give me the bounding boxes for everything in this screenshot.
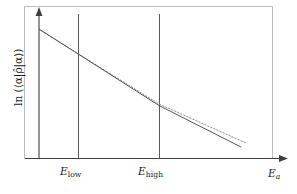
- dotted-trend-line: [39, 30, 246, 144]
- x-tick-label-e-low-main: E: [60, 165, 68, 177]
- figure-container: ln (⟨α|ρ̂|α⟩) Elow Ehigh Ea: [0, 0, 297, 194]
- plot-canvas: [0, 0, 297, 194]
- x-tick-label-e-low-sub: low: [68, 170, 82, 179]
- x-tick-label-e-high-main: E: [138, 165, 146, 177]
- y-axis-label-text: ln (⟨α|ρ̂|α⟩): [12, 49, 24, 106]
- x-axis: [25, 155, 288, 162]
- x-tick-label-e-low: Elow: [60, 166, 81, 177]
- x-tick-label-e-high: Ehigh: [138, 166, 163, 177]
- figure-frame: [25, 7, 273, 159]
- solid-trend-line: [39, 29, 241, 147]
- x-axis-label: Ea: [268, 168, 280, 179]
- x-axis-label-main: E: [268, 167, 276, 179]
- x-axis-label-sub: a: [276, 172, 281, 181]
- x-tick-label-e-high-sub: high: [146, 170, 163, 179]
- y-axis-label: ln (⟨α|ρ̂|α⟩): [13, 31, 24, 123]
